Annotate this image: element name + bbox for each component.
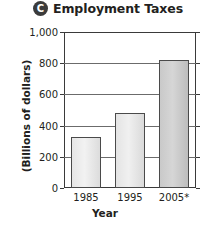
y-axis-tick-label: 800 <box>39 58 58 69</box>
y-axis-tick-label: 0 <box>52 183 58 194</box>
x-axis-tick-label: 1985 <box>73 192 98 203</box>
y-axis-tick-right <box>196 94 200 95</box>
bar-2005 <box>159 60 189 188</box>
y-axis-tick <box>60 188 64 189</box>
panel-letter-badge: C <box>33 1 48 16</box>
y-axis-tick-right <box>196 63 200 64</box>
x-axis-label: Year <box>0 207 210 219</box>
x-axis-tick-label: 2005* <box>159 192 189 203</box>
y-axis-tick-label: 1,000 <box>29 27 58 38</box>
chart-title-row: C Employment Taxes <box>33 1 183 16</box>
y-axis-tick-label: 600 <box>39 89 58 100</box>
y-axis-tick-right <box>196 157 200 158</box>
bar-1995 <box>115 113 145 188</box>
chart-figure: C Employment Taxes (Billions of dollars)… <box>0 0 210 233</box>
x-axis-tick-label: 1995 <box>117 192 142 203</box>
page-title: Employment Taxes <box>53 1 183 16</box>
y-axis-tick-label: 200 <box>39 151 58 162</box>
bar-1985 <box>71 137 101 188</box>
y-axis-tick-right <box>196 32 200 33</box>
bar-series <box>64 32 196 188</box>
y-axis-tick-label: 400 <box>39 120 58 131</box>
y-axis-tick-right <box>196 188 200 189</box>
y-axis-label: (Billions of dollars) <box>20 41 32 191</box>
y-axis-tick-right <box>196 126 200 127</box>
